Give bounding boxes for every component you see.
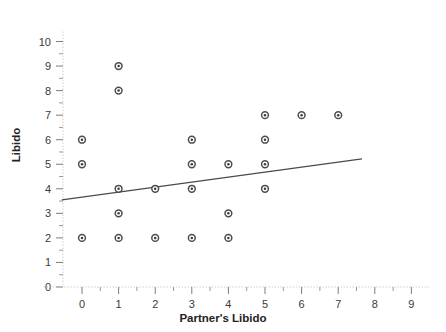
data-point-center (117, 89, 120, 92)
y-tick-label: 10 (39, 36, 51, 48)
data-point-center (81, 237, 84, 240)
data-point-center (154, 188, 157, 191)
data-point-center (191, 188, 194, 191)
data-point-center (227, 163, 230, 166)
x-tick-label: 0 (79, 298, 85, 310)
data-point (152, 235, 159, 242)
data-point-center (227, 237, 230, 240)
data-point-center (191, 163, 194, 166)
data-point (115, 210, 122, 217)
data-point (188, 235, 195, 242)
data-point (335, 112, 342, 119)
figure-background (0, 0, 446, 332)
y-tick-label: 5 (45, 158, 51, 170)
data-point (152, 185, 159, 192)
data-point (262, 185, 269, 192)
data-point-center (264, 138, 267, 141)
data-point (115, 235, 122, 242)
data-point-center (81, 138, 84, 141)
x-tick-label: 2 (152, 298, 158, 310)
x-tick-label: 8 (372, 298, 378, 310)
data-point (298, 112, 305, 119)
x-tick-label: 9 (408, 298, 414, 310)
data-point-center (191, 237, 194, 240)
data-point (225, 210, 232, 217)
x-tick-label: 7 (335, 298, 341, 310)
y-tick-label: 7 (45, 109, 51, 121)
data-point-center (300, 114, 303, 117)
data-point (115, 185, 122, 192)
x-tick-label: 5 (262, 298, 268, 310)
data-point-center (337, 114, 340, 117)
y-tick-label: 4 (45, 183, 51, 195)
y-tick-label: 3 (45, 207, 51, 219)
data-point (79, 136, 86, 143)
data-point (115, 63, 122, 70)
data-point-center (117, 188, 120, 191)
data-point (262, 112, 269, 119)
data-point (188, 161, 195, 168)
data-point-center (117, 65, 120, 68)
data-point-center (154, 237, 157, 240)
scatter-plot-figure: 012345678910 0123456789 Partner's Libido… (0, 0, 446, 332)
data-point (225, 235, 232, 242)
y-tick-label: 2 (45, 232, 51, 244)
data-point (188, 185, 195, 192)
x-tick-label: 3 (189, 298, 195, 310)
data-point-center (264, 188, 267, 191)
y-tick-label: 9 (45, 60, 51, 72)
data-point (262, 161, 269, 168)
y-tick-label: 8 (45, 85, 51, 97)
x-tick-label: 1 (116, 298, 122, 310)
data-point (225, 161, 232, 168)
data-point-center (227, 212, 230, 215)
data-point (79, 235, 86, 242)
data-point (262, 136, 269, 143)
data-point (188, 136, 195, 143)
data-point (115, 87, 122, 94)
data-point-center (117, 237, 120, 240)
y-tick-label: 6 (45, 134, 51, 146)
x-axis-title: Partner's Libido (179, 312, 266, 324)
data-point-center (81, 163, 84, 166)
x-tick-label: 6 (299, 298, 305, 310)
data-point-center (191, 138, 194, 141)
y-tick-label: 1 (45, 256, 51, 268)
y-axis-title: Libido (10, 128, 22, 163)
x-tick-label: 4 (225, 298, 231, 310)
data-point-center (264, 114, 267, 117)
data-point (79, 161, 86, 168)
data-point-center (264, 163, 267, 166)
data-point-center (117, 212, 120, 215)
plot-canvas: 012345678910 0123456789 Partner's Libido… (0, 0, 446, 332)
